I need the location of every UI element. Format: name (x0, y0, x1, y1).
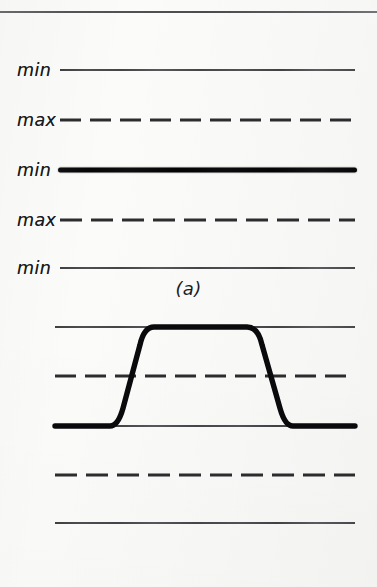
trace-row: max (0, 107, 377, 133)
panel-caption-a: (a) (0, 278, 377, 299)
trace-line-dashed-3 (55, 375, 355, 378)
trace-row: max (0, 207, 377, 233)
trace-line-solid-3 (55, 326, 355, 328)
trace-row (0, 314, 377, 340)
trace-line-dashed-4 (55, 474, 355, 477)
top-horizontal-rule (0, 11, 377, 13)
panel-b: (b) (0, 300, 377, 580)
trace-label-max-1: max (17, 110, 56, 130)
trace-label-min-3: min (17, 258, 51, 278)
trace-label-max-2: max (17, 210, 56, 230)
trace-label-min-2: min (17, 160, 51, 180)
trace-row (0, 462, 377, 488)
trace-label-min-1: min (17, 60, 51, 80)
figure-container: min max min max min (a) (0, 0, 377, 587)
trace-line-solid-2 (60, 267, 355, 269)
trace-line-dashed-1 (60, 119, 355, 122)
trace-row: min (0, 57, 377, 83)
pulse-waveform (0, 300, 377, 580)
trace-row (0, 413, 377, 439)
trace-line-solid-4 (55, 425, 355, 427)
trace-line-bold-1 (58, 168, 357, 173)
trace-line-dashed-2 (60, 219, 355, 222)
trace-row (0, 510, 377, 536)
trace-row (0, 363, 377, 389)
trace-row: min (0, 157, 377, 183)
panel-a: min max min max min (a) (0, 18, 377, 280)
trace-line-solid-5 (55, 522, 355, 524)
trace-line-solid-1 (60, 69, 355, 71)
